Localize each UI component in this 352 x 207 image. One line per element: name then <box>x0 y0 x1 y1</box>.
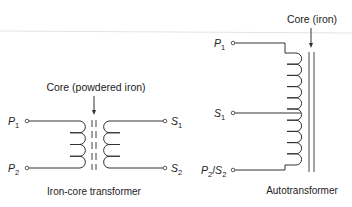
auto-core-arrow-head-icon <box>309 43 313 48</box>
top-rule <box>0 31 352 33</box>
label-auto-p1: P1 <box>214 37 225 52</box>
terminal-auto-s1 <box>231 111 235 115</box>
terminal-s1 <box>163 119 167 123</box>
iron-core <box>309 52 314 172</box>
auto-caption: Autotransformer <box>266 185 338 196</box>
label-auto-p2s2: P2/S2 <box>201 164 226 179</box>
iron-core-core-label: Core (powdered iron) <box>46 81 145 93</box>
auto-coil <box>235 43 302 170</box>
label-auto-s1: S1 <box>214 107 225 122</box>
core-arrow-head-icon <box>92 110 96 115</box>
transformer-diagram: Core (powdered iron) P1 P2 S1 S2 Iron-co… <box>0 0 352 207</box>
powdered-iron-core <box>92 120 96 170</box>
autotransformer: Core (iron) P1 S1 P2/S2 Autotransformer <box>201 13 339 196</box>
label-s1: S1 <box>171 115 182 130</box>
iron-core-transformer: Core (powdered iron) P1 P2 S1 S2 Iron-co… <box>8 81 182 197</box>
label-p2: P2 <box>8 162 19 177</box>
label-s2: S2 <box>171 162 182 177</box>
terminal-p1 <box>25 119 29 123</box>
terminal-auto-p1 <box>231 41 235 45</box>
terminal-s2 <box>163 166 167 170</box>
label-p1: P1 <box>8 115 19 130</box>
iron-core-caption: Iron-core transformer <box>47 186 142 197</box>
primary-coil <box>29 121 85 168</box>
auto-core-label: Core (iron) <box>287 13 337 25</box>
secondary-coil <box>104 121 163 168</box>
terminal-p2 <box>25 166 29 170</box>
terminal-auto-p2s2 <box>231 168 235 172</box>
